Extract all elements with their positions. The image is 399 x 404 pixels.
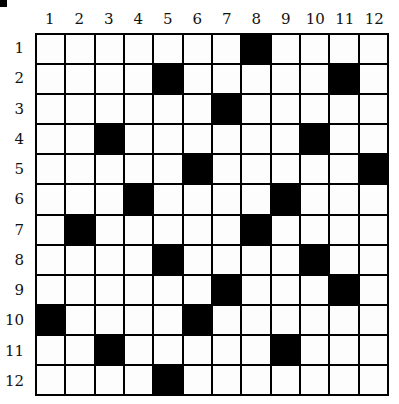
grid-cell-empty[interactable]: [272, 366, 299, 394]
grid-cell-empty[interactable]: [242, 366, 269, 394]
grid-cell-empty[interactable]: [184, 125, 211, 153]
grid-cell-empty[interactable]: [96, 276, 123, 304]
grid-cell-empty[interactable]: [360, 366, 387, 394]
grid-cell-empty[interactable]: [125, 35, 152, 63]
grid-cell-empty[interactable]: [213, 35, 240, 63]
grid-cell-empty[interactable]: [96, 306, 123, 334]
grid-cell-empty[interactable]: [125, 366, 152, 394]
grid-cell-empty[interactable]: [37, 65, 64, 93]
grid-cell-empty[interactable]: [213, 125, 240, 153]
grid-cell-empty[interactable]: [184, 65, 211, 93]
grid-cell-empty[interactable]: [37, 95, 64, 123]
grid-cell-empty[interactable]: [37, 216, 64, 244]
grid-cell-empty[interactable]: [330, 336, 357, 364]
grid-cell-empty[interactable]: [360, 306, 387, 334]
grid-cell-empty[interactable]: [301, 366, 328, 394]
grid-cell-empty[interactable]: [96, 216, 123, 244]
grid-cell-empty[interactable]: [154, 216, 181, 244]
grid-cell-empty[interactable]: [213, 246, 240, 274]
grid-cell-empty[interactable]: [66, 35, 93, 63]
grid-cell-empty[interactable]: [330, 155, 357, 183]
grid-cell-empty[interactable]: [96, 246, 123, 274]
grid-cell-empty[interactable]: [184, 185, 211, 213]
grid-cell-empty[interactable]: [154, 336, 181, 364]
grid-cell-empty[interactable]: [360, 216, 387, 244]
grid-cell-empty[interactable]: [301, 185, 328, 213]
grid-cell-empty[interactable]: [330, 185, 357, 213]
grid-cell-empty[interactable]: [66, 246, 93, 274]
grid-cell-empty[interactable]: [330, 216, 357, 244]
grid-cell-empty[interactable]: [96, 155, 123, 183]
grid-cell-empty[interactable]: [213, 216, 240, 244]
grid-cell-empty[interactable]: [360, 95, 387, 123]
grid-cell-empty[interactable]: [272, 276, 299, 304]
grid-cell-empty[interactable]: [272, 125, 299, 153]
grid-cell-empty[interactable]: [330, 366, 357, 394]
grid-cell-empty[interactable]: [37, 125, 64, 153]
grid-cell-empty[interactable]: [360, 125, 387, 153]
grid-cell-empty[interactable]: [66, 95, 93, 123]
grid-cell-empty[interactable]: [154, 155, 181, 183]
grid-cell-empty[interactable]: [242, 155, 269, 183]
grid-cell-empty[interactable]: [66, 306, 93, 334]
grid-cell-empty[interactable]: [37, 366, 64, 394]
grid-cell-empty[interactable]: [125, 216, 152, 244]
grid-cell-empty[interactable]: [96, 185, 123, 213]
grid-cell-empty[interactable]: [242, 125, 269, 153]
grid-cell-empty[interactable]: [360, 246, 387, 274]
grid-cell-empty[interactable]: [37, 246, 64, 274]
grid-cell-empty[interactable]: [242, 246, 269, 274]
grid-cell-empty[interactable]: [66, 155, 93, 183]
grid-cell-empty[interactable]: [96, 65, 123, 93]
grid-cell-empty[interactable]: [213, 155, 240, 183]
grid-cell-empty[interactable]: [125, 155, 152, 183]
grid-cell-empty[interactable]: [330, 306, 357, 334]
grid-cell-empty[interactable]: [272, 216, 299, 244]
grid-cell-empty[interactable]: [125, 276, 152, 304]
grid-cell-empty[interactable]: [242, 276, 269, 304]
grid-cell-empty[interactable]: [66, 125, 93, 153]
grid-cell-empty[interactable]: [154, 125, 181, 153]
grid-cell-empty[interactable]: [213, 65, 240, 93]
grid-cell-empty[interactable]: [96, 366, 123, 394]
grid-cell-empty[interactable]: [301, 216, 328, 244]
grid-cell-empty[interactable]: [66, 336, 93, 364]
grid-cell-empty[interactable]: [213, 336, 240, 364]
grid-cell-empty[interactable]: [242, 306, 269, 334]
grid-cell-empty[interactable]: [330, 246, 357, 274]
grid-cell-empty[interactable]: [301, 35, 328, 63]
grid-cell-empty[interactable]: [184, 216, 211, 244]
grid-cell-empty[interactable]: [272, 306, 299, 334]
grid-cell-empty[interactable]: [154, 306, 181, 334]
grid-cell-empty[interactable]: [330, 95, 357, 123]
grid-cell-empty[interactable]: [154, 276, 181, 304]
grid-cell-empty[interactable]: [360, 65, 387, 93]
grid-cell-empty[interactable]: [301, 336, 328, 364]
grid-cell-empty[interactable]: [125, 246, 152, 274]
grid-cell-empty[interactable]: [154, 185, 181, 213]
grid-cell-empty[interactable]: [330, 35, 357, 63]
grid-cell-empty[interactable]: [301, 155, 328, 183]
grid-cell-empty[interactable]: [184, 276, 211, 304]
grid-cell-empty[interactable]: [301, 65, 328, 93]
grid-cell-empty[interactable]: [184, 35, 211, 63]
grid-cell-empty[interactable]: [125, 95, 152, 123]
grid-cell-empty[interactable]: [125, 125, 152, 153]
grid-cell-empty[interactable]: [213, 366, 240, 394]
grid-cell-empty[interactable]: [272, 155, 299, 183]
grid-cell-empty[interactable]: [125, 336, 152, 364]
grid-cell-empty[interactable]: [301, 276, 328, 304]
grid-cell-empty[interactable]: [360, 276, 387, 304]
grid-cell-empty[interactable]: [184, 95, 211, 123]
grid-cell-empty[interactable]: [184, 336, 211, 364]
grid-cell-empty[interactable]: [184, 366, 211, 394]
grid-cell-empty[interactable]: [213, 185, 240, 213]
grid-cell-empty[interactable]: [37, 155, 64, 183]
grid-cell-empty[interactable]: [96, 95, 123, 123]
grid-cell-empty[interactable]: [301, 306, 328, 334]
grid-cell-empty[interactable]: [66, 276, 93, 304]
grid-cell-empty[interactable]: [96, 35, 123, 63]
grid-cell-empty[interactable]: [154, 95, 181, 123]
grid-cell-empty[interactable]: [242, 65, 269, 93]
grid-cell-empty[interactable]: [37, 336, 64, 364]
